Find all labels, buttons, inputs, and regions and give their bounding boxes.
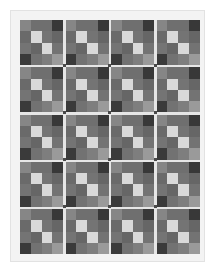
tile-cell: [178, 184, 189, 195]
tile-cell: [157, 115, 168, 126]
tile-cell: [133, 79, 144, 90]
tile-cell: [76, 43, 87, 54]
tile-cell: [20, 90, 31, 101]
tile-cell: [122, 243, 133, 254]
junction-dot: [63, 205, 66, 208]
tile-cell: [167, 162, 178, 173]
tile-cell: [143, 126, 154, 137]
tile-cell: [87, 220, 98, 231]
tile-cell: [111, 162, 122, 173]
tile-cell: [111, 43, 122, 54]
tile-cell: [122, 54, 133, 65]
tile-cell: [52, 20, 63, 31]
tile-cell: [157, 162, 168, 173]
tile-cell: [133, 196, 144, 207]
tile-cell: [167, 173, 178, 184]
pattern-tile: [20, 20, 63, 65]
tile-cell: [87, 43, 98, 54]
tile-cell: [76, 126, 87, 137]
tile-cell: [31, 196, 42, 207]
tile-cell: [52, 101, 63, 112]
tile-cell: [157, 54, 168, 65]
tile-cell: [20, 43, 31, 54]
junction-dot: [154, 205, 157, 208]
tile-cell: [189, 196, 200, 207]
tile-cell: [143, 54, 154, 65]
tile-cell: [76, 232, 87, 243]
tile-cell: [52, 79, 63, 90]
tile-cell: [133, 54, 144, 65]
tile-cell: [122, 43, 133, 54]
tile-cell: [178, 162, 189, 173]
tile-cell: [52, 126, 63, 137]
tile-cell: [157, 126, 168, 137]
tile-cell: [87, 115, 98, 126]
tile-cell: [66, 126, 77, 137]
tile-cell: [111, 31, 122, 42]
junction-dot: [63, 64, 66, 67]
tile-cell: [76, 209, 87, 220]
pattern-tile: [111, 115, 154, 160]
tile-cell: [133, 90, 144, 101]
tile-cell: [76, 173, 87, 184]
tile-cell: [111, 173, 122, 184]
tile-cell: [31, 115, 42, 126]
tile-cell: [189, 173, 200, 184]
tile-cell: [167, 115, 178, 126]
tile-cell: [42, 209, 53, 220]
tile-cell: [98, 79, 109, 90]
tile-cell: [87, 196, 98, 207]
tile-cell: [111, 79, 122, 90]
tile-cell: [143, 90, 154, 101]
tile-cell: [42, 90, 53, 101]
tile-cell: [98, 43, 109, 54]
tile-cell: [87, 79, 98, 90]
tile-cell: [167, 209, 178, 220]
tile-cell: [66, 67, 77, 78]
tile-cell: [42, 101, 53, 112]
tile-cell: [20, 220, 31, 231]
tile-cell: [20, 126, 31, 137]
junction-dot: [154, 111, 157, 114]
tile-cell: [31, 43, 42, 54]
tile-cell: [122, 232, 133, 243]
tile-cell: [167, 90, 178, 101]
tile-cell: [143, 243, 154, 254]
tile-cell: [76, 243, 87, 254]
tile-cell: [178, 67, 189, 78]
tile-cell: [143, 196, 154, 207]
tile-cell: [20, 79, 31, 90]
pattern-tile: [157, 67, 200, 112]
tile-cell: [52, 43, 63, 54]
quilt-tile-grid: [20, 20, 200, 254]
tile-cell: [111, 90, 122, 101]
tile-cell: [178, 209, 189, 220]
tile-cell: [157, 31, 168, 42]
junction-dot: [108, 111, 111, 114]
tile-cell: [31, 162, 42, 173]
tile-cell: [42, 173, 53, 184]
junction-dot: [154, 64, 157, 67]
tile-cell: [98, 184, 109, 195]
tile-cell: [98, 196, 109, 207]
tile-cell: [42, 43, 53, 54]
tile-cell: [189, 209, 200, 220]
tile-cell: [52, 196, 63, 207]
tile-cell: [143, 115, 154, 126]
pattern-tile: [111, 20, 154, 65]
tile-cell: [66, 232, 77, 243]
tile-cell: [133, 148, 144, 159]
tile-cell: [20, 31, 31, 42]
tile-cell: [76, 31, 87, 42]
tile-cell: [189, 31, 200, 42]
tile-cell: [189, 137, 200, 148]
pattern-tile: [111, 209, 154, 254]
tile-cell: [20, 54, 31, 65]
tile-cell: [122, 137, 133, 148]
pattern-tile: [157, 209, 200, 254]
tile-cell: [87, 126, 98, 137]
tile-cell: [98, 162, 109, 173]
tile-cell: [76, 79, 87, 90]
tile-cell: [111, 67, 122, 78]
tile-cell: [66, 20, 77, 31]
